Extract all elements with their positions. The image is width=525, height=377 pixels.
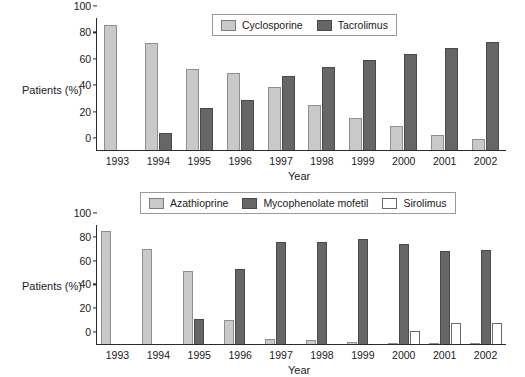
plot-area-bottom: 0204060801001993199419951996199719981999… [96,225,506,345]
bar-top-tacrolimus-1995 [200,108,213,150]
legend-swatch-cyclosporine-icon [221,20,236,31]
bar-top-cyclosporine-1997 [268,87,281,150]
x-tick-top-1997: 1997 [269,155,292,167]
bar-bottom-mycophenolate-mofetil-2002 [481,250,491,344]
legend-item-azathioprine: Azathioprine [149,197,228,209]
bar-group-top-1995 [179,18,220,150]
x-tick-top-2001: 2001 [433,155,456,167]
x-tick-top-2002: 2002 [474,155,497,167]
y-tick-top-20: 20 [80,106,97,118]
bar-top-tacrolimus-1996 [241,100,254,150]
bar-top-tacrolimus-2000 [404,54,417,150]
bar-top-cyclosporine-1994 [145,43,158,150]
legend-swatch-tacrolimus-icon [317,20,332,31]
y-tick-top-40: 40 [80,79,97,91]
x-tick-bottom-2001: 2001 [433,349,456,361]
bar-bottom-mycophenolate-mofetil-1998 [317,242,327,344]
bar-bottom-azathioprine-2002 [470,343,480,344]
bar-group-top-2001 [424,18,465,150]
x-tick-bottom-1993: 1993 [106,349,129,361]
bar-bottom-azathioprine-1993 [101,231,111,344]
x-tick-top-1994: 1994 [147,155,170,167]
bar-top-cyclosporine-1999 [349,118,362,150]
legend-label-azathioprine: Azathioprine [170,197,228,209]
bar-top-tacrolimus-1994 [159,133,172,150]
x-axis-label-bottom: Year [288,364,310,376]
bar-top-cyclosporine-1998 [308,105,321,150]
x-tick-bottom-1996: 1996 [228,349,251,361]
x-tick-bottom-2002: 2002 [474,349,497,361]
y-tick-top-60: 60 [80,53,97,65]
bar-top-cyclosporine-1995 [186,69,199,150]
x-tick-top-1996: 1996 [228,155,251,167]
bar-bottom-azathioprine-1994 [142,249,152,344]
legend-swatch-sirolimus-icon [382,198,397,209]
y-tick-top-100: 100 [74,0,97,12]
legend-item-cyclosporine: Cyclosporine [221,19,303,31]
y-tick-top-80: 80 [80,26,97,38]
legend-bottom: Azathioprine Mycophenolate mofetil Sirol… [140,192,456,214]
bar-bottom-mycophenolate-mofetil-1996 [235,269,245,344]
x-tick-bottom-1994: 1994 [147,349,170,361]
y-axis-label-bottom: Patients (%) [22,280,82,292]
legend-label-cyclosporine: Cyclosporine [242,19,303,31]
bar-bottom-mycophenolate-mofetil-1995 [194,319,204,344]
bar-group-top-1996 [220,18,261,150]
bar-top-tacrolimus-1999 [363,60,376,150]
legend-item-sirolimus: Sirolimus [382,197,446,209]
x-tick-bottom-2000: 2000 [392,349,415,361]
bar-bottom-sirolimus-2002 [492,323,502,344]
x-tick-bottom-1995: 1995 [188,349,211,361]
bar-group-top-2000 [383,18,424,150]
bar-bottom-mycophenolate-mofetil-1997 [276,242,286,344]
bar-top-tacrolimus-2002 [486,42,499,150]
bar-group-top-1997 [261,18,302,150]
bar-group-bottom-2001 [424,225,465,344]
bar-bottom-azathioprine-1999 [347,342,357,344]
bar-bottom-azathioprine-2000 [388,343,398,344]
bar-top-cyclosporine-1993 [104,25,117,150]
legend-label-tacrolimus: Tacrolimus [338,19,388,31]
bar-bottom-sirolimus-2001 [451,323,461,344]
bar-group-top-1998 [302,18,343,150]
bar-group-top-1993 [97,18,138,150]
x-tick-bottom-1997: 1997 [269,349,292,361]
bar-group-top-1994 [138,18,179,150]
bar-bottom-azathioprine-1997 [265,339,275,344]
bar-bottom-azathioprine-1996 [224,320,234,344]
y-tick-bottom-80: 80 [80,231,97,243]
x-tick-bottom-1998: 1998 [310,349,333,361]
bar-top-cyclosporine-2001 [431,135,444,150]
y-axis-label-top: Patients (%) [22,84,82,96]
legend-swatch-azathioprine-icon [149,198,164,209]
bar-top-tacrolimus-1997 [282,76,295,150]
bar-group-top-2002 [465,18,506,150]
legend-swatch-mycophenolate-mofetil-icon [242,198,257,209]
bar-top-cyclosporine-1996 [227,73,240,150]
bar-group-bottom-1997 [261,225,302,344]
y-tick-bottom-100: 100 [74,207,97,219]
legend-label-mycophenolate-mofetil: Mycophenolate mofetil [263,197,368,209]
bar-bottom-azathioprine-1995 [183,271,193,344]
y-tick-bottom-0: 0 [85,326,97,338]
y-tick-bottom-60: 60 [80,255,97,267]
bar-top-tacrolimus-2001 [445,48,458,150]
bar-group-bottom-1995 [179,225,220,344]
chart-panel-top: Patients (%) Year 0204060801001993199419… [0,0,525,188]
bar-group-top-1999 [342,18,383,150]
x-tick-bottom-1999: 1999 [351,349,374,361]
bar-group-bottom-1998 [302,225,343,344]
plot-area-top: 0204060801001993199419951996199719981999… [96,18,506,151]
bar-bottom-mycophenolate-mofetil-2001 [440,251,450,344]
bar-top-tacrolimus-1998 [322,67,335,150]
legend-item-mycophenolate-mofetil: Mycophenolate mofetil [242,197,368,209]
bar-bottom-azathioprine-2001 [429,343,439,344]
y-tick-bottom-20: 20 [80,302,97,314]
x-tick-top-1998: 1998 [310,155,333,167]
y-tick-top-0: 0 [85,132,97,144]
bar-group-bottom-1999 [342,225,383,344]
x-tick-top-1999: 1999 [351,155,374,167]
legend-label-sirolimus: Sirolimus [403,197,446,209]
bar-bottom-mycophenolate-mofetil-2000 [399,244,409,344]
bar-group-bottom-1996 [220,225,261,344]
